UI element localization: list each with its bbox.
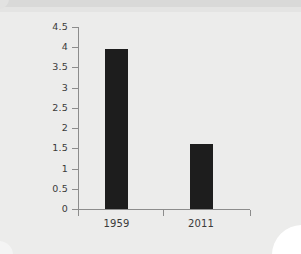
y-axis-tick-mark	[72, 108, 78, 109]
y-axis-line	[78, 27, 79, 210]
bar	[190, 144, 213, 209]
y-axis-tick-mark	[72, 67, 78, 68]
bar	[105, 49, 128, 209]
plot-area: 00.511.522.533.544.5 19592011	[0, 0, 301, 254]
y-axis-tick-label: 4.5	[8, 22, 68, 32]
x-axis-line	[78, 209, 250, 210]
bar-chart-figure: 00.511.522.533.544.5 19592011	[0, 0, 301, 254]
y-axis-tick-mark	[72, 148, 78, 149]
y-axis-tick-label: 0	[8, 204, 68, 214]
y-axis-tick-mark	[72, 128, 78, 129]
y-axis-tick-label: 1	[8, 164, 68, 174]
y-axis-tick-label: 2.5	[8, 103, 68, 113]
x-axis-tick-label: 2011	[171, 219, 231, 229]
y-axis-tick-label: 3.5	[8, 62, 68, 72]
y-axis-tick-label: 0.5	[8, 184, 68, 194]
x-axis-tick-label: 1959	[87, 219, 147, 229]
y-axis-tick-label: 2	[8, 123, 68, 133]
y-axis-tick-label: 3	[8, 83, 68, 93]
y-axis-tick-mark	[72, 189, 78, 190]
y-axis-tick-mark	[72, 169, 78, 170]
y-axis-tick-mark	[72, 88, 78, 89]
y-axis-tick-label: 1.5	[8, 143, 68, 153]
y-axis-tick-mark	[72, 27, 78, 28]
y-axis-tick-label: 4	[8, 42, 68, 52]
x-axis-tick-mark	[163, 210, 164, 216]
x-axis-tick-mark	[78, 210, 79, 216]
y-axis-tick-mark	[72, 47, 78, 48]
x-axis-tick-mark	[250, 210, 251, 216]
